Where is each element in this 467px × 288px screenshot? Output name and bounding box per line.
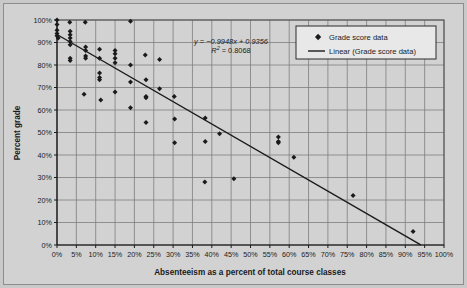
- y-axis-title: Percent grade: [13, 105, 22, 160]
- y-tick-label: 70%: [38, 83, 53, 92]
- x-tick-label: 70%: [321, 250, 336, 259]
- x-tick-label: 65%: [301, 250, 316, 259]
- legend-label-grade-score-data: Grade score data: [329, 33, 388, 42]
- x-tick-label: 85%: [379, 250, 394, 259]
- x-tick-label: 45%: [224, 250, 239, 259]
- x-axis-title: Absenteeism as a percent of total course…: [154, 268, 346, 277]
- r-squared-value: = 0.8068: [220, 46, 251, 55]
- y-axis-tick-labels: 0%10%20%30%40%50%60%70%80%90%100%: [34, 16, 53, 250]
- x-tick-label: 5%: [71, 250, 82, 259]
- chart-screenshot: 0%10%20%30%40%50%60%70%80%90%100% 0%5%10…: [0, 0, 467, 288]
- x-tick-label: 25%: [147, 250, 162, 259]
- x-tick-label: 40%: [205, 250, 220, 259]
- scatter-chart: 0%10%20%30%40%50%60%70%80%90%100% 0%5%10…: [0, 0, 467, 288]
- x-tick-label: 60%: [282, 250, 297, 259]
- x-tick-label: 95%: [417, 250, 432, 259]
- x-tick-label: 50%: [243, 250, 258, 259]
- x-tick-label: 15%: [108, 250, 123, 259]
- legend-label-linear-trend: Linear (Grade score data): [329, 47, 416, 56]
- y-tick-label: 60%: [38, 106, 53, 115]
- y-tick-label: 50%: [38, 128, 53, 137]
- x-axis-ticks: [57, 245, 444, 248]
- y-tick-label: 40%: [38, 151, 53, 160]
- x-tick-label: 10%: [89, 250, 104, 259]
- x-tick-label: 80%: [359, 250, 374, 259]
- x-tick-label: 30%: [166, 250, 181, 259]
- y-tick-label: 0%: [42, 241, 53, 250]
- y-tick-label: 90%: [38, 38, 53, 47]
- x-tick-label: 75%: [340, 250, 355, 259]
- x-tick-label: 0%: [52, 250, 63, 259]
- chart-legend: Grade score data Linear (Grade score dat…: [296, 26, 436, 59]
- y-tick-label: 10%: [38, 218, 53, 227]
- x-tick-label: 90%: [398, 250, 413, 259]
- x-tick-label: 55%: [263, 250, 278, 259]
- x-tick-label: 20%: [127, 250, 142, 259]
- y-tick-label: 80%: [38, 61, 53, 70]
- y-tick-label: 20%: [38, 196, 53, 205]
- x-tick-label: 35%: [185, 250, 200, 259]
- y-tick-label: 30%: [38, 173, 53, 182]
- x-axis-tick-labels: 0%5%10%15%20%25%30%35%40%45%50%55%60%65%…: [52, 250, 454, 259]
- trendline-equation-label: y = −0.9948x + 0.9356: [193, 37, 269, 46]
- x-tick-label: 100%: [435, 250, 454, 259]
- y-tick-label: 100%: [34, 16, 53, 25]
